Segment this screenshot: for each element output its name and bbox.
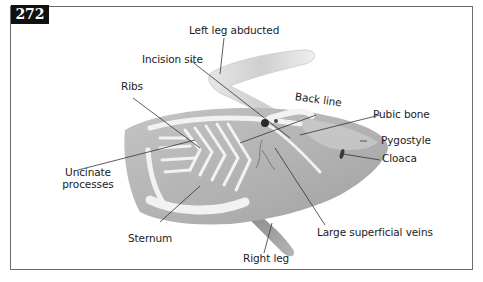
label-right-leg: Right leg bbox=[243, 252, 289, 264]
label-pygostyle: Pygostyle bbox=[381, 134, 431, 146]
label-sternum: Sternum bbox=[128, 232, 172, 244]
label-incision-site: Incision site bbox=[142, 53, 203, 65]
label-ribs: Ribs bbox=[121, 80, 143, 92]
label-left-leg-abducted: Left leg abducted bbox=[189, 24, 279, 36]
label-uncinate-processes: Uncinate processes bbox=[56, 166, 120, 190]
label-pubic-bone: Pubic bone bbox=[373, 108, 430, 120]
label-large-superficial-veins: Large superficial veins bbox=[317, 226, 433, 238]
label-cloaca: Cloaca bbox=[382, 152, 417, 164]
figure-number: 272 bbox=[11, 5, 49, 24]
